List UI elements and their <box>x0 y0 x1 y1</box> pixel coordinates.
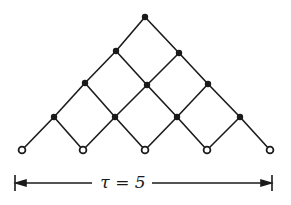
lattice-edge <box>54 117 83 150</box>
lattice-edge <box>115 117 145 150</box>
open-node <box>267 147 274 154</box>
left-arrowhead-icon <box>16 180 26 186</box>
lattice-edge <box>115 85 147 117</box>
lattice-edge <box>147 53 179 85</box>
lattice-edge <box>177 117 207 150</box>
filled-node <box>174 114 180 120</box>
lattice-edge <box>22 117 54 150</box>
open-nodes <box>19 147 274 154</box>
right-arrowhead-icon <box>261 180 271 186</box>
lattice-edge <box>54 83 85 117</box>
filled-node <box>205 81 211 87</box>
lattice-edge <box>208 84 240 117</box>
lattice-edge <box>85 83 115 117</box>
lattice-edge <box>83 117 115 150</box>
lattice-edge <box>85 51 116 83</box>
lattice-edge <box>207 117 240 150</box>
lattice-edge <box>116 51 147 85</box>
open-node <box>142 147 149 154</box>
lattice-edge <box>240 117 270 150</box>
filled-node <box>51 114 57 120</box>
filled-node <box>144 82 150 88</box>
lattice-edge <box>116 17 145 51</box>
lattice-edge <box>177 84 208 117</box>
lattice-edge <box>147 85 177 117</box>
filled-node <box>237 114 243 120</box>
open-node <box>19 147 26 154</box>
lattice-edge <box>179 53 208 84</box>
filled-node <box>82 80 88 86</box>
filled-node <box>142 14 148 20</box>
filled-nodes <box>51 14 243 120</box>
open-node <box>204 147 211 154</box>
tau-label: τ = 5 <box>98 172 148 192</box>
lattice-edge <box>145 117 177 150</box>
filled-node <box>113 48 119 54</box>
open-node <box>80 147 87 154</box>
lattice-edge <box>145 17 179 53</box>
filled-node <box>112 114 118 120</box>
filled-node <box>176 50 182 56</box>
